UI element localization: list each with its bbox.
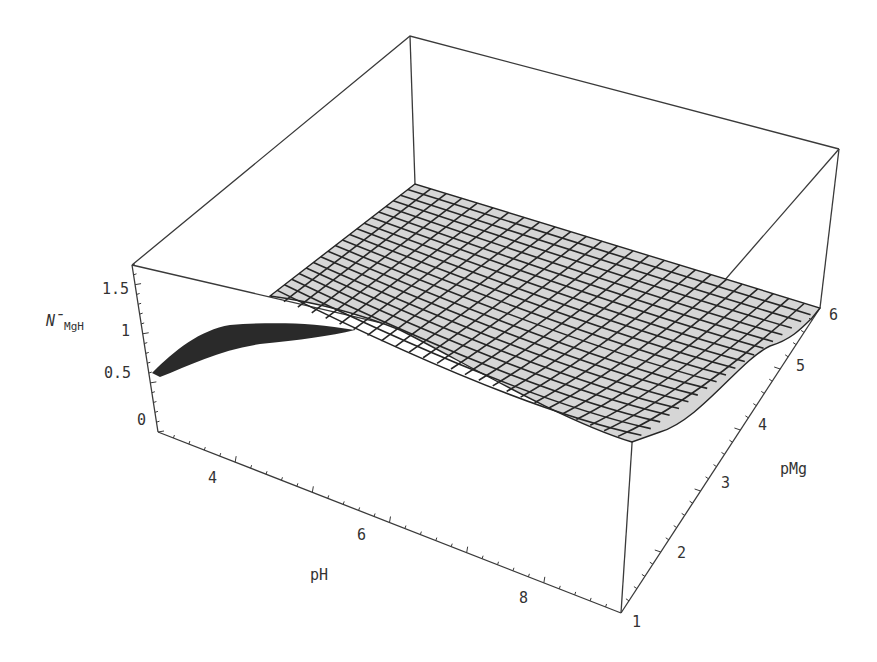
z-tick-1.5: 1.5 — [102, 280, 129, 298]
surface-plot: 1.5 1 0.5 0 N̄MgH 4 6 8 pH 1 2 3 4 5 6 p… — [0, 0, 877, 662]
surface-mesh — [270, 184, 820, 442]
z-axis-label: N̄MgH — [45, 312, 84, 333]
y-tick-4: 4 — [758, 416, 767, 434]
z-tick-0: 0 — [137, 411, 146, 429]
y-tick-3: 3 — [721, 474, 730, 492]
x-tick-8: 8 — [519, 589, 528, 607]
x-axis: 4 6 8 pH — [173, 435, 606, 607]
z-tick-0.5: 0.5 — [104, 364, 131, 382]
y-tick-1: 1 — [632, 613, 641, 631]
x-tick-4: 4 — [208, 469, 217, 487]
y-tick-6: 6 — [829, 306, 838, 324]
y-axis-label: pMg — [780, 460, 807, 478]
y-tick-5: 5 — [796, 357, 805, 375]
z-tick-1: 1 — [121, 322, 130, 340]
y-tick-2: 2 — [677, 544, 686, 562]
z-axis: 1.5 1 0.5 0 N̄MgH — [45, 264, 164, 432]
x-tick-6: 6 — [357, 526, 366, 544]
surface-underside — [152, 323, 355, 377]
x-axis-label: pH — [310, 566, 328, 584]
